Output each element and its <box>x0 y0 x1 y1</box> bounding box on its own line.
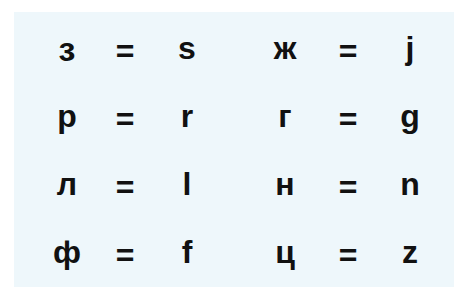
equals-sign: = <box>339 103 358 135</box>
equals-sign: = <box>339 239 358 271</box>
cyrillic-letter: ф <box>53 236 81 268</box>
equals-sign: = <box>116 35 135 67</box>
cyrillic-letter: л <box>57 168 77 200</box>
latin-letter: z <box>402 236 418 268</box>
cyrillic-letter: ц <box>275 236 295 268</box>
cyrillic-letter: ж <box>274 32 297 64</box>
equals-sign: = <box>116 171 135 203</box>
latin-letter: n <box>400 168 420 200</box>
equals-sign: = <box>116 239 135 271</box>
latin-letter: l <box>183 168 192 200</box>
latin-letter: g <box>400 100 420 132</box>
latin-letter: s <box>178 32 196 64</box>
equals-sign: = <box>339 35 358 67</box>
cyrillic-letter: н <box>275 168 294 200</box>
equals-sign: = <box>339 171 358 203</box>
latin-letter: f <box>182 236 193 268</box>
cyrillic-letter: р <box>57 100 77 132</box>
cyrillic-letter: г <box>278 100 291 132</box>
latin-letter: j <box>406 32 415 64</box>
cyrillic-letter: з <box>59 32 76 66</box>
equals-sign: = <box>116 103 135 135</box>
latin-letter: r <box>181 100 193 132</box>
